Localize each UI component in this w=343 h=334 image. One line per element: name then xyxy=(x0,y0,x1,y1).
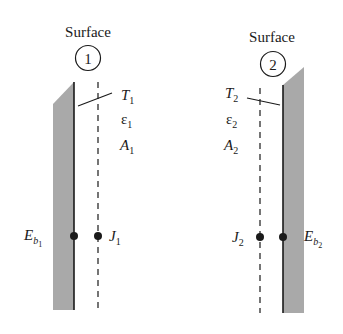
surface-1-blackbody-node xyxy=(70,232,78,240)
surface-1-blackbody-label: Eb1 xyxy=(23,227,42,249)
surface-1-number: 1 xyxy=(84,51,92,67)
radiation-surfaces-diagram: Surface 1 T1 ε1 A1 Eb1 J1 Surface 2 xyxy=(0,0,343,334)
surface-1-title: Surface xyxy=(65,24,111,40)
surface-2-shaded-body xyxy=(283,67,304,313)
surface-2-blackbody-node xyxy=(279,233,287,241)
surface-1-group: Surface 1 T1 ε1 A1 Eb1 J1 xyxy=(23,24,134,310)
surface-1-radiosity-node xyxy=(94,232,102,240)
surface-1-temperature-label: T1 xyxy=(121,87,134,106)
surface-2-emissivity-label: ε2 xyxy=(226,111,237,130)
surface-2-temperature-label: T2 xyxy=(225,85,238,104)
surface-1-emissivity-label: ε1 xyxy=(121,111,132,130)
surface-2-group: Surface 2 T2 ε2 A2 J2 Eb2 xyxy=(223,29,322,313)
surface-1-area-label: A1 xyxy=(119,137,134,156)
surface-1-shaded-body xyxy=(53,82,74,310)
surface-2-title: Surface xyxy=(249,29,295,45)
surface-2-area-label: A2 xyxy=(223,137,238,156)
surface-2-number: 2 xyxy=(269,57,277,73)
surface-2-radiosity-label: J2 xyxy=(232,229,244,248)
surface-1-leader-line xyxy=(78,93,112,106)
surface-2-blackbody-label: Eb2 xyxy=(303,228,322,250)
surface-1-radiosity-label: J1 xyxy=(109,228,121,247)
surface-2-leader-line xyxy=(247,98,280,105)
surface-2-radiosity-node xyxy=(256,233,264,241)
